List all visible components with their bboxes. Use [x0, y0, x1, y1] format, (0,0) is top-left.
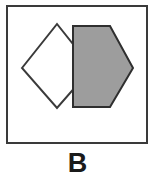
gray-pentagon-shape [73, 26, 133, 107]
shape-canvas [0, 0, 155, 150]
figure-caption-label: B [0, 148, 155, 178]
figure-panel: B [0, 0, 155, 180]
